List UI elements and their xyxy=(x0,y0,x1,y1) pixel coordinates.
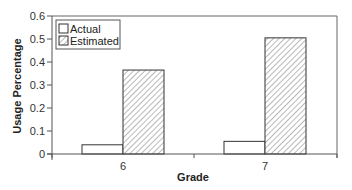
y-tick-label: 0.3 xyxy=(30,79,45,91)
y-axis: 00.10.20.30.40.50.6 xyxy=(30,10,52,160)
bar-actual-grade-6 xyxy=(82,145,123,154)
bar-actual-grade-7 xyxy=(224,141,265,154)
y-tick-label: 0 xyxy=(39,148,45,160)
y-tick-label: 0.5 xyxy=(30,33,45,45)
legend-swatch-estimated-icon xyxy=(59,36,68,45)
bar-estimated-grade-7 xyxy=(265,38,306,154)
bar-chart: 00.10.20.30.40.50.6 67 Usage Percentage … xyxy=(0,0,352,190)
y-axis-title: Usage Percentage xyxy=(11,38,23,133)
x-axis-title: Grade xyxy=(177,171,209,183)
y-tick-label: 0.1 xyxy=(30,125,45,137)
x-axis: 67 xyxy=(47,154,337,172)
x-tick-label: 7 xyxy=(262,160,268,172)
x-tick-label: 6 xyxy=(120,160,126,172)
legend: Actual Estimated xyxy=(56,20,120,49)
legend-swatch-actual-icon xyxy=(59,24,68,33)
bar-estimated-grade-6 xyxy=(123,70,164,154)
y-tick-label: 0.6 xyxy=(30,10,45,22)
legend-label-estimated: Estimated xyxy=(70,35,119,47)
y-tick-label: 0.4 xyxy=(30,56,45,68)
bars xyxy=(82,38,306,154)
y-tick-label: 0.2 xyxy=(30,102,45,114)
legend-label-actual: Actual xyxy=(70,23,101,35)
